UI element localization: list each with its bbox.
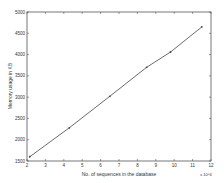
x-tick-label: 10 xyxy=(172,163,178,168)
data-point-marker xyxy=(68,127,70,129)
axis-ticks: 2345678910111215002000250030003500400045… xyxy=(15,10,214,169)
x-tick-label: 8 xyxy=(136,163,139,168)
x-tick-label: 4 xyxy=(63,163,66,168)
x-tick-label: 9 xyxy=(155,163,158,168)
y-tick-label: 2000 xyxy=(15,137,26,142)
line-chart: 2345678910111215002000250030003500400045… xyxy=(0,0,224,183)
data-series xyxy=(29,26,203,158)
data-point-marker xyxy=(29,156,31,158)
x-tick-label: 7 xyxy=(118,163,121,168)
data-point-marker xyxy=(170,51,172,53)
series-line xyxy=(30,27,202,157)
data-point-marker xyxy=(201,26,203,28)
x-tick-label: 5 xyxy=(81,163,84,168)
data-point-marker xyxy=(146,66,148,68)
x-tick-label: 2 xyxy=(26,163,29,168)
x-tick-label: 12 xyxy=(208,163,214,168)
x-tick-label: 3 xyxy=(44,163,47,168)
y-axis-label: Memory usage in KB xyxy=(7,62,13,109)
x-tick-label: 11 xyxy=(190,163,195,168)
y-tick-label: 1500 xyxy=(15,159,26,164)
data-point-marker xyxy=(109,95,111,97)
y-tick-label: 4500 xyxy=(15,31,26,36)
x-axis-label: No. of sequences in the database xyxy=(82,171,157,177)
x-axis-multiplier: x 10^4 xyxy=(200,172,212,177)
y-tick-label: 5000 xyxy=(15,10,26,15)
x-tick-label: 6 xyxy=(99,163,102,168)
y-tick-label: 4000 xyxy=(15,52,26,57)
y-tick-label: 3000 xyxy=(15,95,26,100)
y-tick-label: 2500 xyxy=(15,116,26,121)
y-tick-label: 3500 xyxy=(15,73,26,78)
